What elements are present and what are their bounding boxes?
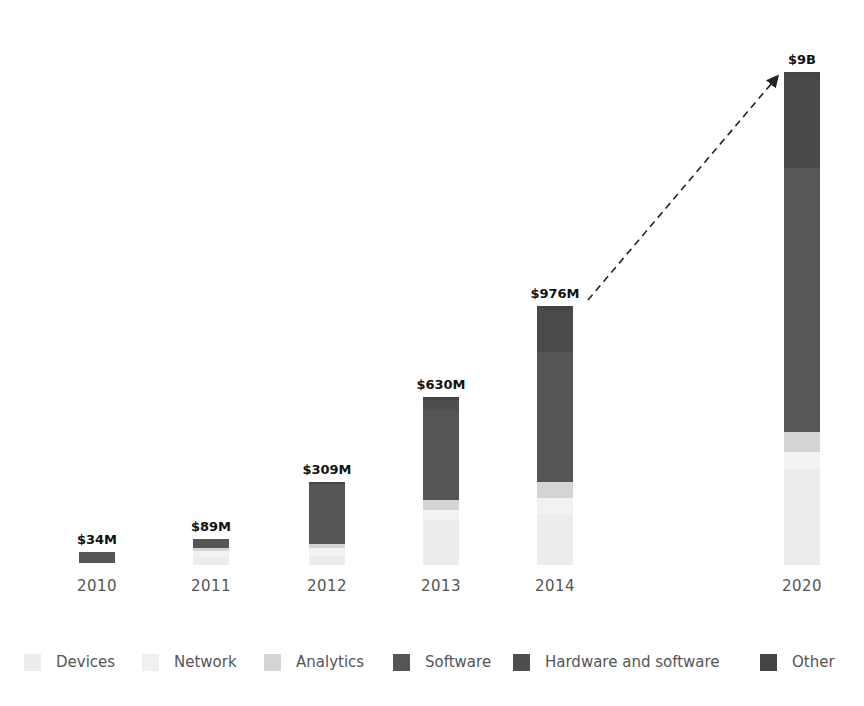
segment-devices — [193, 557, 229, 565]
total-label: $89M — [191, 519, 231, 534]
x-tick-label: 2012 — [307, 577, 347, 595]
bar-2013 — [423, 397, 459, 565]
x-tick-label: 2014 — [535, 577, 575, 595]
legend-swatch-icon — [24, 654, 41, 671]
segment-devices — [423, 520, 459, 565]
legend-label: Analytics — [296, 653, 364, 671]
segment-other — [537, 306, 573, 310]
legend-item-devices: Devices — [24, 650, 115, 674]
segment-hardware-and-software — [537, 310, 573, 352]
segment-software — [79, 552, 115, 563]
segment-software — [537, 352, 573, 482]
legend-label: Software — [425, 653, 491, 671]
segment-software — [423, 410, 459, 500]
legend-item-software: Software — [393, 650, 491, 674]
legend-label: Devices — [56, 653, 115, 671]
segment-hardware-and-software — [784, 74, 820, 168]
bar-2010 — [79, 552, 115, 563]
segment-analytics — [537, 482, 573, 498]
x-tick-label: 2010 — [77, 577, 117, 595]
segment-analytics — [423, 500, 459, 510]
total-label: $309M — [302, 462, 351, 477]
bar-2011 — [193, 539, 229, 565]
segment-analytics — [784, 432, 820, 452]
legend-label: Hardware and software — [545, 653, 720, 671]
segment-other — [423, 397, 459, 400]
segment-software — [309, 484, 345, 544]
bar-2014 — [537, 306, 573, 565]
total-label: $9B — [788, 52, 816, 67]
total-label: $630M — [416, 377, 465, 392]
segment-analytics — [193, 548, 229, 551]
legend-item-other: Other — [760, 650, 835, 674]
segment-analytics — [309, 544, 345, 548]
legend-item-hardware-and-software: Hardware and software — [513, 650, 720, 674]
segment-network — [309, 548, 345, 556]
segment-other — [784, 72, 820, 74]
legend-swatch-icon — [142, 654, 159, 671]
stacked-bar-chart: $34M2010$89M2011$309M2012$630M2013$976M2… — [0, 0, 864, 620]
segment-hardware-and-software — [423, 400, 459, 410]
total-label: $976M — [530, 286, 579, 301]
segment-devices — [309, 556, 345, 565]
segment-other — [309, 482, 345, 484]
segment-devices — [537, 514, 573, 565]
x-tick-label: 2011 — [191, 577, 231, 595]
segment-software — [193, 539, 229, 548]
legend-label: Other — [792, 653, 835, 671]
legend-item-network: Network — [142, 650, 237, 674]
segment-network — [193, 551, 229, 557]
x-tick-label: 2020 — [782, 577, 822, 595]
legend-swatch-icon — [393, 654, 410, 671]
segment-software — [784, 168, 820, 432]
segment-network — [784, 452, 820, 469]
segment-devices — [784, 469, 820, 565]
bar-2020 — [784, 72, 820, 565]
legend: DevicesNetworkAnalyticsSoftwareHardware … — [0, 650, 864, 674]
legend-label: Network — [174, 653, 237, 671]
legend-item-analytics: Analytics — [264, 650, 364, 674]
segment-network — [423, 510, 459, 520]
total-label: $34M — [77, 532, 117, 547]
bar-2012 — [309, 482, 345, 565]
legend-swatch-icon — [760, 654, 777, 671]
x-tick-label: 2013 — [421, 577, 461, 595]
legend-swatch-icon — [513, 654, 530, 671]
segment-network — [537, 498, 573, 514]
legend-swatch-icon — [264, 654, 281, 671]
